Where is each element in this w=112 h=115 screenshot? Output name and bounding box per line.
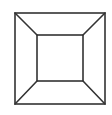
diagram-svg: [0, 0, 112, 115]
inner-square: [37, 35, 83, 81]
connector-top-left: [15, 13, 37, 35]
frustum-diagram: [0, 0, 112, 115]
connector-bottom-right: [83, 81, 105, 104]
connector-bottom-left: [15, 81, 37, 104]
connector-top-right: [83, 13, 105, 35]
